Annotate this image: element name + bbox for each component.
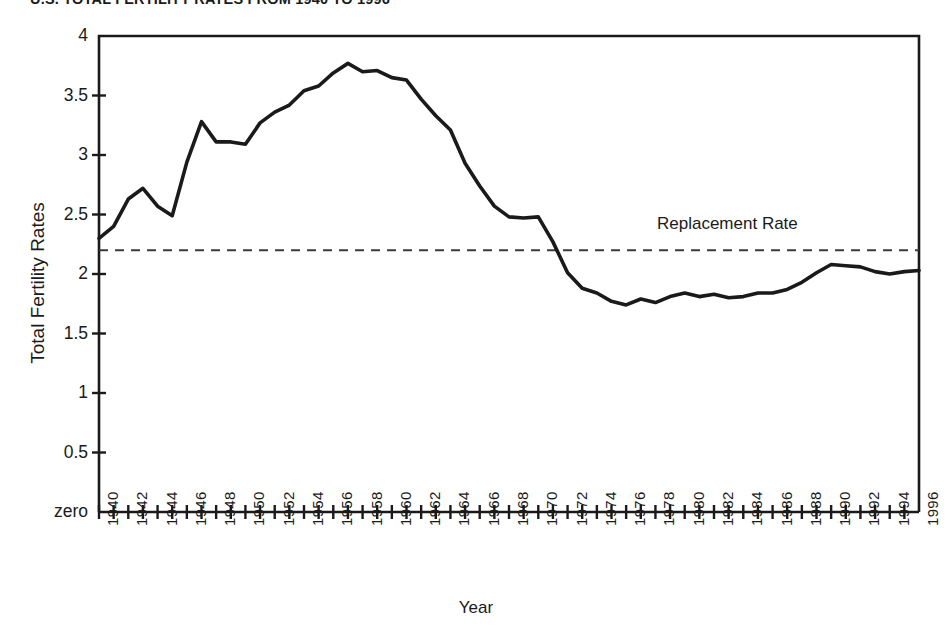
x-tick-label: 1942 — [134, 491, 149, 526]
replacement-rate-annotation: Replacement Rate — [657, 214, 798, 234]
x-tick-label: 1946 — [193, 491, 208, 526]
x-tick-label: 1958 — [369, 491, 384, 526]
x-axis-tick-labels: 1940194219441946194819501952195419561958… — [0, 0, 952, 633]
x-tick-label: 1982 — [720, 491, 735, 526]
x-tick-label: 1988 — [808, 491, 823, 526]
x-tick-label: 1952 — [281, 491, 296, 526]
x-tick-label: 1980 — [691, 491, 706, 526]
x-tick-label: 1956 — [339, 491, 354, 526]
x-tick-label: 1992 — [866, 491, 881, 526]
x-tick-label: 1996 — [925, 491, 940, 526]
chart-figure: U.S. TOTAL FERTILITY RATES FROM 1940 TO … — [0, 0, 952, 633]
x-tick-label: 1964 — [456, 491, 471, 526]
x-tick-label: 1940 — [105, 491, 120, 526]
x-tick-label: 1976 — [632, 491, 647, 526]
x-tick-label: 1972 — [574, 491, 589, 526]
x-tick-label: 1990 — [837, 491, 852, 526]
x-tick-label: 1978 — [661, 491, 676, 526]
x-tick-label: 1994 — [896, 491, 911, 526]
x-tick-label: 1954 — [310, 491, 325, 526]
x-tick-label: 1968 — [515, 491, 530, 526]
x-tick-label: 1962 — [427, 491, 442, 526]
x-tick-label: 1950 — [251, 491, 266, 526]
x-tick-label: 1984 — [749, 491, 764, 526]
x-tick-label: 1974 — [603, 491, 618, 526]
x-tick-label: 1944 — [164, 491, 179, 526]
x-tick-label: 1986 — [779, 491, 794, 526]
x-tick-label: 1960 — [398, 491, 413, 526]
x-tick-label: 1970 — [544, 491, 559, 526]
x-tick-label: 1966 — [486, 491, 501, 526]
x-tick-label: 1948 — [222, 491, 237, 526]
